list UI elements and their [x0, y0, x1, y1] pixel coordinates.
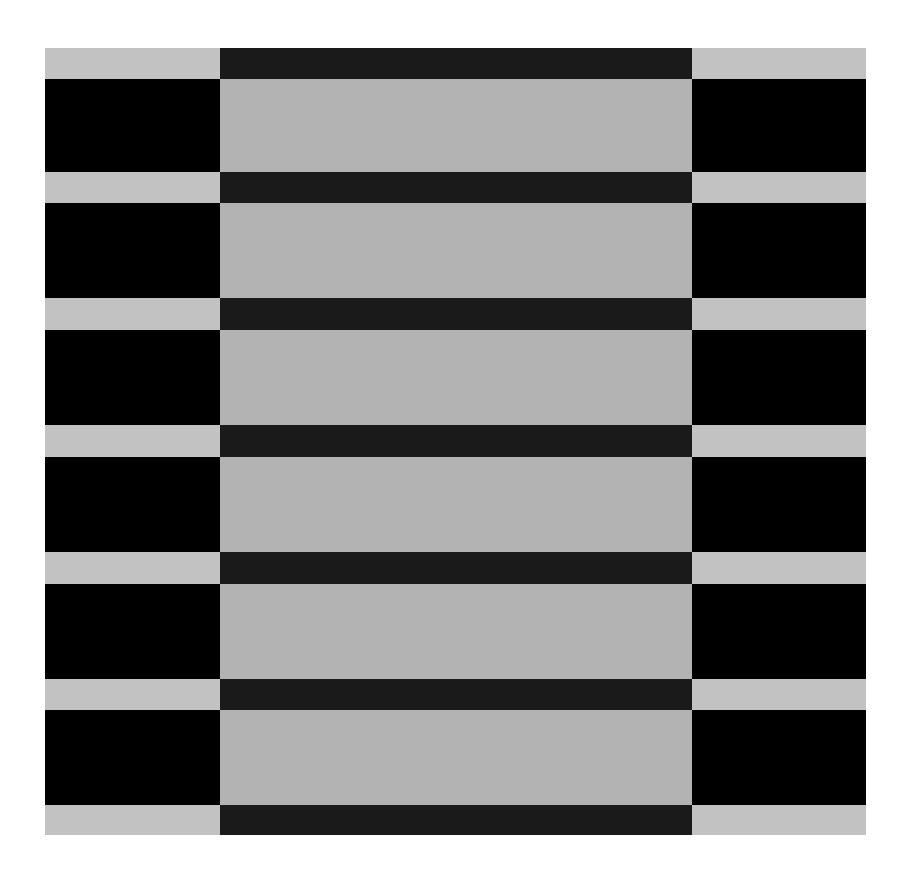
center-tall-band — [220, 584, 692, 679]
center-thin-band — [220, 679, 692, 710]
center-tall-band — [220, 457, 692, 552]
center-thin-band — [220, 805, 692, 835]
right-thin-band — [692, 425, 866, 457]
left-thin-band — [45, 48, 220, 79]
right-thin-band — [692, 48, 866, 79]
right-tall-band — [692, 710, 866, 805]
left-thin-band — [45, 679, 220, 710]
center-tall-band — [220, 710, 692, 805]
left-thin-band — [45, 805, 220, 835]
right-thin-band — [692, 679, 866, 710]
right-tall-band — [692, 203, 866, 298]
right-thin-band — [692, 298, 866, 330]
center-thin-band — [220, 298, 692, 330]
left-tall-band — [45, 584, 220, 679]
left-thin-band — [45, 172, 220, 203]
right-tall-band — [692, 79, 866, 172]
center-tall-band — [220, 79, 692, 172]
center-thin-band — [220, 48, 692, 79]
left-tall-band — [45, 710, 220, 805]
left-thin-band — [45, 552, 220, 584]
left-thin-band — [45, 298, 220, 330]
center-thin-band — [220, 172, 692, 203]
center-tall-band — [220, 330, 692, 425]
center-tall-band — [220, 203, 692, 298]
left-tall-band — [45, 79, 220, 172]
right-thin-band — [692, 172, 866, 203]
left-tall-band — [45, 203, 220, 298]
center-thin-band — [220, 552, 692, 584]
left-tall-band — [45, 330, 220, 425]
left-tall-band — [45, 457, 220, 552]
right-thin-band — [692, 805, 866, 835]
illusion-artwork — [0, 0, 913, 872]
right-tall-band — [692, 457, 866, 552]
center-thin-band — [220, 425, 692, 457]
right-thin-band — [692, 552, 866, 584]
left-thin-band — [45, 425, 220, 457]
right-tall-band — [692, 330, 866, 425]
right-tall-band — [692, 584, 866, 679]
